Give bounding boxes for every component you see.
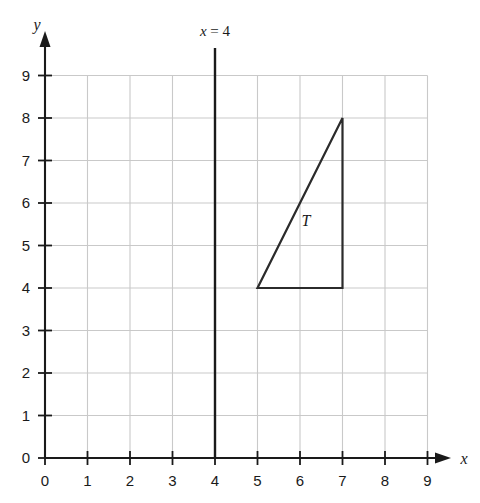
y-axis-tick-label-5: 5 (22, 237, 30, 254)
x-axis: 0 1 2 3 4 5 6 7 8 9 x (41, 450, 468, 489)
vertical-line-label-value: 4 (223, 23, 231, 39)
y-axis-arrow-icon (40, 31, 51, 47)
y-axis-tick-label-7: 7 (22, 152, 30, 169)
y-axis-tick-label-8: 8 (22, 109, 30, 126)
y-axis-tick-label-0: 0 (22, 449, 30, 466)
grid-lines (45, 76, 428, 459)
x-axis-tick-label-7: 7 (338, 472, 346, 489)
x-axis-tick-label-2: 2 (126, 472, 134, 489)
y-axis-tick-label-3: 3 (22, 322, 30, 339)
y-axis-name-label: y (31, 16, 41, 34)
y-axis-tick-label-6: 6 (22, 194, 30, 211)
x-axis-tick-label-3: 3 (168, 472, 176, 489)
y-axis: 0 1 2 3 4 5 6 7 8 9 y (22, 16, 52, 466)
x-axis-tick-label-8: 8 (381, 472, 389, 489)
x-axis-name-label: x (459, 450, 467, 467)
y-axis-tick-label-1: 1 (22, 407, 30, 424)
vertical-line-x-equals-4: x = 4 (199, 23, 231, 458)
y-axis-tick-label-4: 4 (22, 279, 30, 296)
vertical-line-label: x = 4 (199, 23, 231, 39)
x-axis-tick-label-6: 6 (296, 472, 304, 489)
x-axis-tick-label-0: 0 (41, 472, 49, 489)
x-axis-tick-label-9: 9 (423, 472, 431, 489)
x-axis-tick-label-4: 4 (211, 472, 219, 489)
triangle-t-label: T (302, 212, 312, 229)
x-axis-tick-label-5: 5 (253, 472, 261, 489)
figure-root: 0 1 2 3 4 5 6 7 8 9 y (0, 0, 480, 503)
x-axis-arrow-icon (435, 453, 451, 464)
coordinate-plane: 0 1 2 3 4 5 6 7 8 9 y (0, 0, 480, 503)
y-axis-tick-label-2: 2 (22, 364, 30, 381)
y-axis-tick-label-9: 9 (22, 67, 30, 84)
x-axis-tick-label-1: 1 (83, 472, 91, 489)
vertical-line-label-equals: = (207, 23, 223, 39)
